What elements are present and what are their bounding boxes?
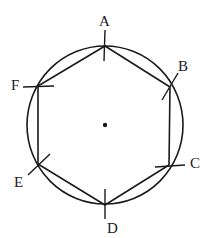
vertex-label-c: C — [190, 155, 200, 171]
center-point — [103, 123, 107, 127]
tick-mark-c — [155, 165, 185, 167]
vertex-label-a: A — [99, 13, 110, 29]
vertex-label-b: B — [178, 58, 188, 74]
tick-mark-e — [28, 154, 50, 175]
tick-mark-a — [104, 30, 105, 61]
tick-mark-f — [23, 86, 54, 87]
vertex-label-f: F — [11, 77, 19, 93]
vertex-label-e: E — [14, 174, 23, 190]
hexagon-diagram: A B C D E F — [0, 0, 213, 238]
vertex-label-d: D — [107, 220, 118, 236]
